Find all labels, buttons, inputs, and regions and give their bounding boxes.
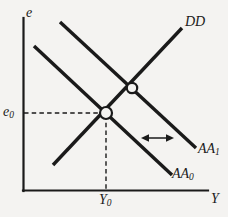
curve-label-AA1-base: AA [198,141,215,156]
curve-label-AA1: AA1 [198,142,220,156]
curve-label-DD: DD [185,15,205,29]
y-axis-label: e [26,6,32,20]
new-equilibrium-dot [127,83,137,93]
x-equilibrium-label-base: Y [99,192,107,207]
curve-label-AA0: AA0 [172,167,194,181]
curve-label-AA0-sub: 0 [189,172,194,182]
figure-canvas [0,0,228,217]
aa-dd-figure: e Y e0 Y0 DD AA1 AA0 [0,0,228,217]
initial-equilibrium-dot [100,107,112,119]
curve-label-AA0-base: AA [172,166,189,181]
y-equilibrium-label-sub: 0 [9,110,14,120]
x-equilibrium-label: Y0 [99,193,112,207]
curve-label-DD-base: DD [185,14,205,29]
curve-label-AA1-sub: 1 [215,147,220,157]
x-axis-label: Y [211,192,219,206]
curve-DD [53,28,182,165]
aa-shift-arrow-head-left [141,134,149,142]
x-equilibrium-label-sub: 0 [107,198,112,208]
y-equilibrium-label: e0 [3,105,14,119]
aa-shift-arrow-head-right [166,134,174,142]
